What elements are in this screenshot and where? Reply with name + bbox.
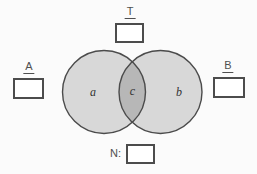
n-input[interactable] xyxy=(126,144,155,164)
total-label-text: T xyxy=(125,6,136,19)
total-label: T xyxy=(125,6,136,19)
region-b-label: b xyxy=(176,85,182,99)
set-a-label-text: A xyxy=(23,61,34,74)
set-a-label: A xyxy=(23,61,34,74)
set-b-label-text: B xyxy=(222,60,233,73)
total-input[interactable] xyxy=(115,23,144,43)
set-b-label: B xyxy=(222,60,233,73)
venn-worksheet-canvas: a c b T A B N: xyxy=(0,0,257,174)
region-a-label: a xyxy=(90,85,96,99)
region-c-label: c xyxy=(130,84,136,98)
n-label: N: xyxy=(110,148,121,159)
set-b-input[interactable] xyxy=(213,77,245,98)
set-a-input[interactable] xyxy=(13,78,44,99)
